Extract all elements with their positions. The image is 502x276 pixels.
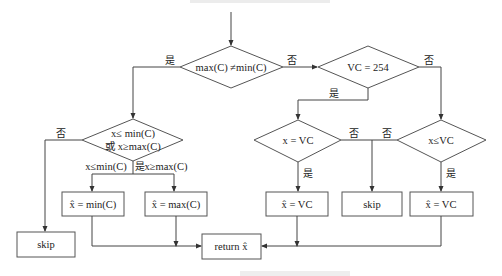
top-caption-fragment <box>190 0 330 3</box>
flowchart: max(C) ≠min(C) 是 否 VC = 254 否 是 x≤ min(C… <box>0 0 502 276</box>
d3-branch-max-label: x≥max(C) <box>144 161 188 173</box>
skip-box-left-label: skip <box>37 239 55 250</box>
d4-no-label: 否 <box>349 128 359 139</box>
d2-no-label: 否 <box>424 55 434 66</box>
d2-no-connector <box>419 67 441 119</box>
return-label: return x̂ <box>215 241 249 252</box>
d1-no-label: 否 <box>287 55 297 66</box>
d2-yes-label: 是 <box>329 88 339 99</box>
d5-yes-label: 是 <box>446 168 456 179</box>
decision-out-of-range <box>82 119 183 161</box>
decision-x-le-vc-label: x≤VC <box>428 135 454 146</box>
d3-no-label: 否 <box>56 128 66 139</box>
d4-yes-label: 是 <box>303 168 313 179</box>
d3-branch-min-label: x≤min(C) <box>85 161 127 173</box>
decision-out-of-range-line2: 或 x≥max(C) <box>105 141 161 153</box>
decision-vc-254-label: VC = 254 <box>347 62 389 73</box>
d5-no-label: 否 <box>382 128 392 139</box>
set-min-label: x̂ = min(C) <box>70 199 117 211</box>
bottom-caption-fragment <box>240 271 350 276</box>
d1-yes-label: 是 <box>165 55 175 66</box>
decision-out-of-range-line1: x≤ min(C) <box>111 128 155 140</box>
d1-yes-connector <box>133 67 180 118</box>
decision-x-equals-vc-label: x = VC <box>283 135 314 146</box>
vc2-to-return-connector <box>262 216 441 246</box>
set-vc-2-label: x̂ = VC <box>426 199 457 210</box>
set-vc-1-label: x̂ = VC <box>282 199 313 210</box>
decision-minmax-differ-label: max(C) ≠min(C) <box>196 62 267 74</box>
d3-no-connector <box>45 140 82 231</box>
skip-box-mid-label: skip <box>363 199 381 210</box>
min-to-return-connector <box>92 216 201 246</box>
set-max-label: x̂ = max(C) <box>152 199 201 211</box>
